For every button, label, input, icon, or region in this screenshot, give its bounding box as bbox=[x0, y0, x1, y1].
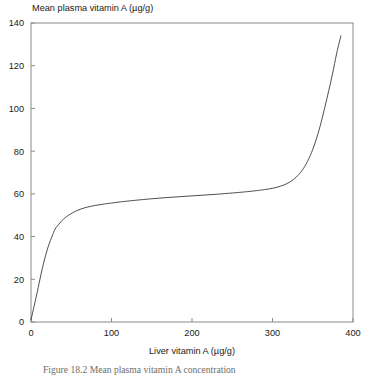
figure-container: Mean plasma vitamin A (µg/g) 01002003004… bbox=[0, 0, 373, 376]
x-axis-tick-labels: 0100200300400 bbox=[28, 328, 360, 338]
y-tick-label: 20 bbox=[14, 275, 24, 285]
data-series-line bbox=[31, 36, 341, 320]
y-tick-label: 60 bbox=[14, 189, 24, 199]
x-tick-label: 0 bbox=[28, 328, 33, 338]
x-axis-title: Liver vitamin A (µg/g) bbox=[31, 346, 353, 357]
figure-caption-label: Figure 18.2 bbox=[43, 364, 87, 375]
figure-caption: Figure 18.2 Mean plasma vitamin A concen… bbox=[43, 364, 363, 375]
line-chart: 0100200300400 020406080100120140 bbox=[0, 0, 373, 376]
y-tick-label: 120 bbox=[9, 61, 24, 71]
y-tick-label: 80 bbox=[14, 147, 24, 157]
x-tick-label: 100 bbox=[104, 328, 119, 338]
plot-frame bbox=[31, 23, 353, 322]
x-tick-label: 200 bbox=[184, 328, 199, 338]
x-tick-label: 300 bbox=[265, 328, 280, 338]
y-tick-label: 0 bbox=[19, 317, 24, 327]
y-axis-ticks bbox=[31, 23, 35, 322]
y-tick-label: 100 bbox=[9, 104, 24, 114]
x-tick-label: 400 bbox=[345, 328, 360, 338]
y-axis-tick-labels: 020406080100120140 bbox=[9, 18, 24, 327]
x-axis-ticks bbox=[31, 318, 353, 322]
y-tick-label: 40 bbox=[14, 232, 24, 242]
y-tick-label: 140 bbox=[9, 18, 24, 28]
figure-caption-text: Mean plasma vitamin A concentration bbox=[90, 364, 236, 375]
